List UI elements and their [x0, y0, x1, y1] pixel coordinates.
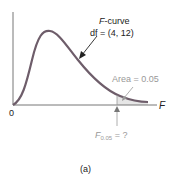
curve-arrow-head [79, 51, 86, 59]
area-label: Area = 0.05 [112, 74, 159, 84]
curve-title: F-curve [99, 16, 130, 26]
critical-value-marker [114, 106, 120, 112]
area-arrow-line [124, 87, 133, 98]
axis-label-f: F [159, 100, 166, 111]
critical-value-label: F0.05 = ? [95, 130, 127, 141]
curve-arrow-line [82, 36, 97, 55]
origin-label: 0 [9, 108, 14, 118]
f-curve-diagram: F-curve df = (4, 12) Area = 0.05 F 0 F0.… [0, 0, 174, 176]
df-label: df = (4, 12) [90, 28, 134, 38]
figure-caption: (a) [80, 164, 91, 174]
